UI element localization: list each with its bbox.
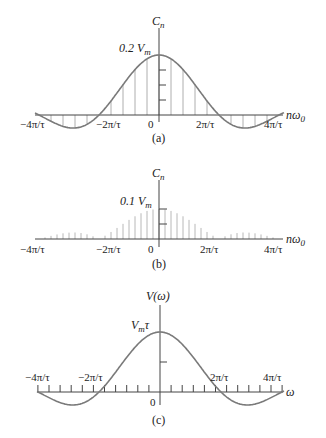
tick-label-c-neg4: −4π/τ: [25, 371, 50, 383]
tick-label-b-zero: 0: [148, 243, 154, 255]
tick-label-b-neg2: −2π/τ: [96, 243, 121, 255]
caption-b: (b): [152, 257, 166, 271]
tick-label-b-neg4: −4π/τ: [20, 243, 45, 255]
x-axis-label-c: ω: [286, 385, 294, 399]
tick-label-b-pos4: 4π/τ: [264, 243, 283, 255]
peak-label-b: 0.1 Vm: [120, 194, 152, 210]
tick-label-c-neg2: −2π/τ: [78, 371, 103, 383]
y-axis-label-a: Cn: [152, 14, 165, 30]
tick-label-c-pos4: 4π/τ: [263, 371, 282, 383]
tick-label-a-pos2: 2π/τ: [196, 118, 215, 130]
panel-c: V(ω) Vmτ ω −4π/τ −2π/τ 0 2π/τ 4π/τ (c): [25, 289, 294, 427]
x-axis-label-a: nω0: [286, 108, 305, 124]
caption-c: (c): [152, 413, 165, 427]
x-axis-label-b: nω0: [286, 232, 305, 248]
y-axis-label-c: V(ω): [146, 289, 170, 303]
caption-a: (a): [152, 131, 165, 145]
tick-label-a-neg4: −4π/τ: [20, 118, 45, 130]
tick-label-b-pos2: 2π/τ: [200, 243, 219, 255]
spectrum-figure: Cn 0.2 Vm nω0 −4π/τ −2π/τ 0 2π/τ 4π/τ (a…: [0, 0, 326, 438]
panel-a: Cn 0.2 Vm nω0 −4π/τ −2π/τ 0 2π/τ 4π/τ (a…: [20, 14, 305, 145]
y-axis-ticks-a: [159, 70, 166, 100]
tick-label-a-pos4: 4π/τ: [264, 118, 283, 130]
panel-b: Cn 0.1 Vm nω0 −4π/τ −2π/τ 0 2π/τ 4π/τ (b…: [20, 166, 305, 271]
tick-label-a-zero: 0: [148, 118, 154, 130]
tick-label-c-zero: 0: [150, 396, 156, 408]
peak-label-c: Vmτ: [131, 318, 150, 334]
y-axis-label-b: Cn: [152, 166, 165, 182]
tick-label-c-pos2: 2π/τ: [210, 371, 229, 383]
peak-label-a: 0.2 Vm: [119, 41, 151, 57]
y-axis-ticks-b: [159, 209, 167, 224]
tick-label-a-neg2: −2π/τ: [96, 118, 121, 130]
